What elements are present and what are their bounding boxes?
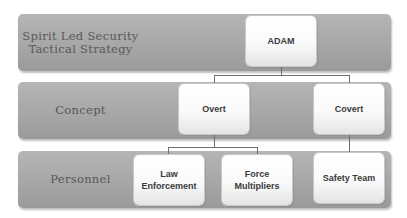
- node-overt: Overt: [179, 84, 249, 134]
- band-label-concept: Concept: [18, 82, 143, 139]
- band-label-strategy: Spirit Led Security Tactical Strategy: [18, 14, 143, 71]
- connector-line: [168, 147, 258, 148]
- node-force-multipliers: Force Multipliers: [222, 155, 292, 205]
- node-covert: Covert: [314, 84, 384, 134]
- band-strategy: Spirit Led Security Tactical Strategy: [18, 14, 391, 71]
- connector-line: [349, 75, 350, 84]
- connector-line: [214, 75, 215, 84]
- node-safety-team: Safety Team: [314, 153, 384, 203]
- connector-line: [168, 147, 169, 155]
- connector-line: [281, 66, 282, 75]
- node-adam: ADAM: [246, 16, 316, 66]
- connector-line: [214, 134, 215, 147]
- connector-line: [257, 147, 258, 155]
- node-law-enforcement: Law Enforcement: [134, 155, 204, 205]
- connector-line: [214, 75, 350, 76]
- band-label-personnel: Personnel: [18, 151, 143, 208]
- connector-line: [349, 134, 350, 153]
